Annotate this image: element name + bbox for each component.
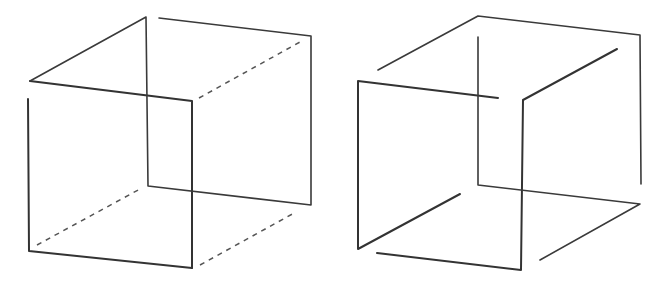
back-edge — [30, 17, 311, 205]
front-edge — [30, 81, 192, 268]
back-edge — [378, 16, 641, 184]
back-edge — [478, 37, 640, 260]
impossible-cube-figure — [358, 16, 641, 270]
hidden-edge — [37, 189, 140, 245]
hidden-edge — [199, 42, 300, 98]
front-edge — [358, 81, 498, 249]
necker-cube-figure — [28, 17, 311, 268]
front-edge — [28, 99, 192, 268]
hidden-edge — [200, 212, 296, 265]
cube-illustrations — [0, 0, 670, 285]
